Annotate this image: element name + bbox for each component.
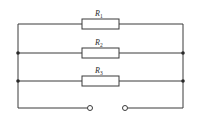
resistor-r3 [82,76,119,86]
junction-dot [181,51,185,55]
left-terminal-icon [88,106,93,111]
junction-dot [16,79,20,83]
resistor-r1 [82,19,119,29]
right-terminal-icon [123,106,128,111]
r3-label: R3 [94,66,103,76]
junction-dot [16,51,20,55]
circuit-svg: R1 R2 R3 [0,0,199,124]
r1-label: R1 [94,9,103,19]
resistor-r2 [82,48,119,58]
r2-label: R2 [94,38,103,48]
circuit-diagram: R1 R2 R3 [0,0,199,124]
junction-dot [181,79,185,83]
